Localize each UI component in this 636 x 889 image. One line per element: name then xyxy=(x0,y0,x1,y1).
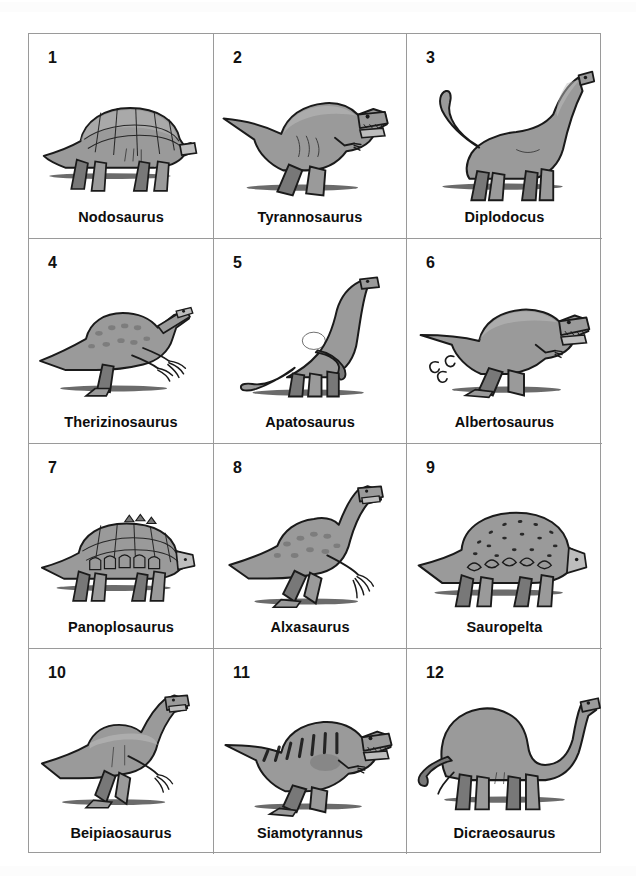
dinosaur-grid: 1 Nodosaurus2 xyxy=(28,33,601,853)
dinosaur-cell[interactable]: 2 Tyrannosaurus xyxy=(214,34,407,239)
dinosaur-name-label: Alxasaurus xyxy=(214,619,406,635)
scan-artifact-bottom xyxy=(0,866,636,876)
diplodocus-illustration xyxy=(407,64,602,199)
dinosaur-name-label: Dicraeosaurus xyxy=(407,825,602,841)
motion-swirl xyxy=(430,356,455,382)
dinosaur-name-label: Apatosaurus xyxy=(214,414,406,430)
tyrannosaurus-illustration xyxy=(214,64,406,199)
dinosaur-cell[interactable]: 11 Siamotyrannus xyxy=(214,649,407,854)
scan-artifact-top xyxy=(0,2,636,12)
dinosaur-name-label: Diplodocus xyxy=(407,209,602,225)
dinosaur-name-label: Siamotyrannus xyxy=(214,825,406,841)
ground-shadow xyxy=(62,799,165,805)
dinosaur-name-label: Nodosaurus xyxy=(29,209,213,225)
ground-shadow xyxy=(60,386,167,392)
dinosaur-name-label: Albertosaurus xyxy=(407,414,602,430)
siamotyrannus-illustration xyxy=(214,679,406,814)
dinosaur-cell[interactable]: 10 Beipiaosaurus xyxy=(29,649,214,854)
dinosaur-name-label: Therizinosaurus xyxy=(29,414,213,430)
dinosaur-name-label: Beipiaosaurus xyxy=(29,825,213,841)
dinosaur-cell[interactable]: 12 Dicraeosaurus xyxy=(407,649,602,854)
dinosaur-name-label: Panoplosaurus xyxy=(29,619,213,635)
alxasaurus-illustration xyxy=(214,474,406,609)
dinosaur-cell[interactable]: 9 Sauropelta xyxy=(407,444,602,649)
dinosaur-cell[interactable]: 7 Panoplosaurus xyxy=(29,444,214,649)
nodosaurus-illustration xyxy=(29,64,213,199)
dinosaur-cell[interactable]: 5 Apatosaurus xyxy=(214,239,407,444)
dinosaur-name-label: Tyrannosaurus xyxy=(214,209,406,225)
sauropelta-illustration xyxy=(407,474,602,609)
dinosaur-chart-page: 1 Nodosaurus2 xyxy=(0,0,636,889)
dicraeosaurus-illustration xyxy=(407,679,602,814)
ground-shadow xyxy=(247,185,358,191)
dinosaur-name-label: Sauropelta xyxy=(407,619,602,635)
ground-shadow xyxy=(452,387,561,393)
dinosaur-cell[interactable]: 8 Alxasaurus xyxy=(214,444,407,649)
therizinosaurus-illustration xyxy=(29,269,213,404)
dinosaur-cell[interactable]: 1 Nodosaurus xyxy=(29,34,214,239)
dinosaur-cell[interactable]: 6 Albertosaurus xyxy=(407,239,602,444)
apatosaurus-illustration xyxy=(214,269,406,404)
beipiaosaurus-illustration xyxy=(29,679,213,814)
ground-shadow xyxy=(49,173,170,179)
ground-shadow xyxy=(254,598,358,604)
ground-shadow xyxy=(254,803,362,809)
albertosaurus-illustration xyxy=(407,269,602,404)
panoplosaurus-illustration xyxy=(29,474,213,609)
dinosaur-cell[interactable]: 4 Therizinosaurus xyxy=(29,239,214,444)
dinosaur-cell[interactable]: 3 Diplodocus xyxy=(407,34,602,239)
